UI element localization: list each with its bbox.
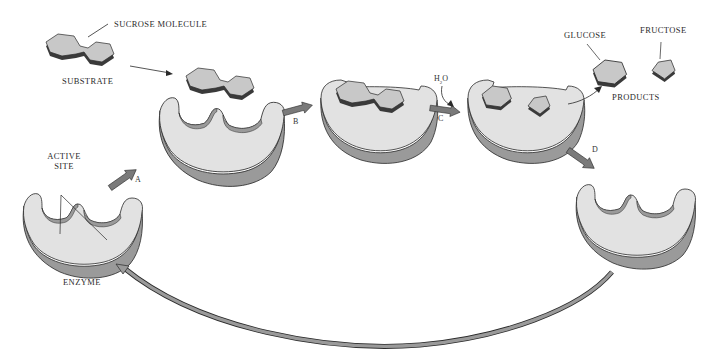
active-site-label-line1: ACTIVE — [44, 152, 84, 161]
step-b-arrow — [282, 100, 314, 119]
fructose-leader-line — [660, 42, 661, 59]
enzyme-substrate-complex — [321, 80, 438, 163]
step-c-label: C — [438, 115, 443, 123]
substrate-to-enzyme-arrow — [130, 66, 173, 76]
sucrose-molecule-label: SUCROSE MOLECULE — [114, 20, 207, 29]
active-site-label-line2: SITE — [44, 162, 84, 171]
enzyme-awaiting-substrate — [159, 98, 284, 187]
products-label: PRODUCTS — [612, 93, 660, 102]
glucose-product — [593, 60, 627, 88]
water-label: H2O — [434, 75, 448, 85]
glucose-label: GLUCOSE — [564, 31, 606, 40]
sucrose-substrate-molecule — [46, 34, 114, 66]
glucose-leader-line — [587, 44, 600, 60]
enzyme-label: ENZYME — [63, 278, 101, 287]
fructose-label: FRUCTOSE — [640, 26, 687, 35]
step-b-label: B — [293, 118, 298, 126]
active-site-label: ACTIVE SITE — [44, 152, 84, 170]
water-o: O — [442, 74, 448, 83]
step-d-label: D — [592, 146, 598, 154]
recycle-arrow — [116, 264, 612, 346]
sucrose-leader-line — [88, 24, 108, 37]
released-enzyme — [576, 185, 695, 270]
substrate-label: SUBSTRATE — [62, 77, 113, 86]
fructose-product — [652, 60, 675, 82]
approaching-sucrose-molecule — [186, 68, 254, 100]
enzyme-cycle-diagram — [0, 0, 710, 363]
step-a-label: A — [135, 176, 141, 184]
